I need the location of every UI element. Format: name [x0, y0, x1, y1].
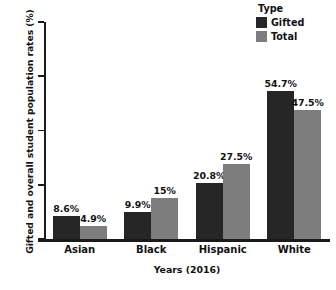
bar-chart-figure: Gifted and overall student population ra… [0, 0, 336, 290]
x-category-label-black: Black [116, 244, 188, 255]
legend-item-total[interactable]: Total [256, 31, 334, 42]
y-tick-40 [38, 130, 44, 132]
chart-legend: Type GiftedTotal [256, 3, 334, 45]
bar-black-gifted [124, 212, 151, 239]
x-category-label-white: White [259, 244, 331, 255]
plot-area: 020406080 8.6%4.9%9.9%15%20.8%27.5%54.7%… [44, 22, 330, 241]
bar-value-label-white-total: 47.5% [287, 97, 328, 108]
bar-hispanic-gifted [196, 183, 223, 239]
bar-value-label-asian-total: 4.9% [73, 213, 114, 224]
bar-value-label-hispanic-total: 27.5% [216, 151, 257, 162]
bar-hispanic-total [223, 164, 250, 239]
legend-label-gifted: Gifted [271, 17, 304, 28]
legend-entries: GiftedTotal [256, 17, 334, 42]
x-axis-line [38, 239, 330, 242]
bar-asian-total [80, 226, 107, 239]
legend-swatch-gifted [256, 17, 267, 28]
bar-value-label-white-gifted: 54.7% [260, 78, 301, 89]
bar-value-label-black-total: 15% [144, 185, 185, 196]
legend-swatch-total [256, 31, 267, 42]
y-tick-80 [38, 21, 44, 23]
legend-item-gifted[interactable]: Gifted [256, 17, 334, 28]
y-tick-20 [38, 184, 44, 186]
x-category-label-hispanic: Hispanic [187, 244, 259, 255]
bar-black-total [151, 198, 178, 239]
y-axis-title: Gifted and overall student population ra… [24, 7, 35, 257]
y-tick-60 [38, 75, 44, 77]
x-category-label-asian: Asian [44, 244, 116, 255]
legend-title: Type [258, 3, 334, 14]
bar-white-gifted [267, 91, 294, 239]
legend-label-total: Total [271, 31, 297, 42]
y-tick-0 [38, 238, 44, 240]
x-axis-title: Years (2016) [44, 264, 330, 275]
bar-white-total [294, 110, 321, 239]
